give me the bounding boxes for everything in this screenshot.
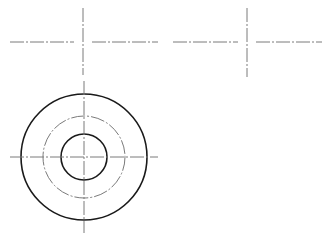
concentric-circle-view: [10, 81, 158, 233]
top-left-center-mark: [10, 8, 158, 75]
technical-drawing: [0, 0, 330, 237]
top-right-center-mark: [173, 8, 322, 77]
